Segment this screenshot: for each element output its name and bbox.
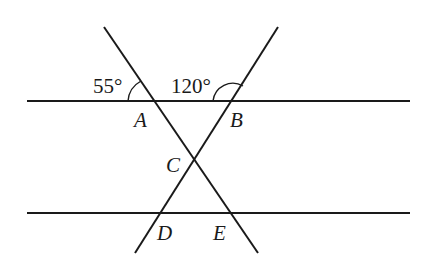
point-label-b: B — [230, 108, 243, 132]
angle-label-b: 120° — [171, 74, 211, 98]
angle-label-a: 55° — [93, 74, 122, 98]
transversal-line-ae — [104, 27, 258, 253]
point-label-e: E — [212, 221, 226, 245]
angle-arc-b — [213, 83, 243, 101]
point-label-a: A — [132, 108, 147, 132]
point-label-c: C — [166, 153, 181, 177]
angle-arc-a — [128, 81, 141, 101]
transversal-line-bd — [135, 27, 278, 253]
point-label-d: D — [156, 221, 172, 245]
geometry-diagram: 55° 120° A B C D E — [0, 0, 430, 261]
